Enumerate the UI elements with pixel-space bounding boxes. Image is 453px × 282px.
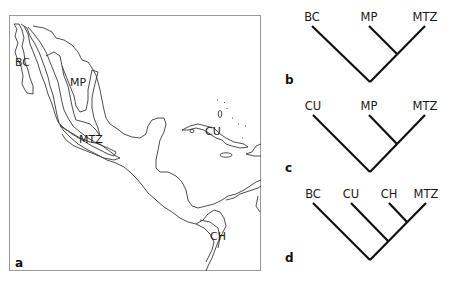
region-label-bc: BC	[15, 56, 30, 69]
taxon-label: BC	[304, 10, 320, 24]
taxon-label: MTZ	[414, 187, 439, 201]
region-label-mp: MP	[70, 76, 86, 89]
taxon-label: MTZ	[413, 10, 438, 24]
region-label-mtz: MTZ	[79, 133, 103, 146]
cladogram-b: BC MP MTZ b	[285, 10, 438, 87]
branch-mp	[369, 115, 397, 144]
mainland-coast-west	[21, 24, 226, 271]
panel-letter-d: d	[285, 251, 294, 265]
cladogram-d: BC CU CH MTZ d	[285, 187, 439, 265]
map-panel: BC MP MTZ CU CH a	[14, 24, 261, 271]
isle-of-youth-outline	[190, 129, 194, 132]
taxon-label: MP	[361, 99, 378, 113]
region-label-ch: CH	[210, 230, 226, 243]
taxon-label: CH	[381, 187, 398, 201]
bahamas-island-outline	[218, 111, 222, 118]
branch-cu	[351, 203, 388, 241]
branch-ch	[389, 203, 407, 222]
hispaniola-outline	[246, 144, 261, 156]
branch-bc	[313, 203, 370, 260]
panel-letter-a: a	[15, 256, 23, 270]
cladogram-c: CU MP MTZ c	[285, 99, 438, 175]
branch-cu	[313, 115, 370, 172]
mexican-plateau-outline	[46, 52, 100, 136]
bahamas-dots	[217, 100, 246, 138]
taxon-label: MTZ	[413, 99, 438, 113]
taxon-label: CU	[305, 99, 321, 113]
panel-letter-c: c	[285, 161, 292, 175]
branch-mp	[369, 26, 397, 54]
region-label-cu: CU	[205, 125, 221, 138]
figure-canvas: BC MP MTZ CU CH a BC MP MTZ b CU MP MTZ …	[0, 0, 453, 282]
taxon-label: MP	[361, 10, 378, 24]
taxon-label: CU	[343, 187, 359, 201]
jamaica-outline	[220, 153, 232, 157]
panel-letter-b: b	[285, 73, 294, 87]
branch-bc	[312, 26, 370, 82]
taxon-label: BC	[305, 187, 321, 201]
